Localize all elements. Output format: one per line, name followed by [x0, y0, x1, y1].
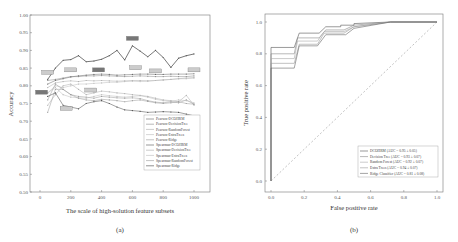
- data-point: [170, 102, 171, 103]
- legend-label: Extra Trees (AUC = 0.94 ± 0.07): [370, 166, 418, 170]
- data-point: [70, 83, 71, 84]
- legend-label: Pearson-Ridge: [156, 138, 178, 142]
- y-tick-label: 0.6: [256, 83, 263, 88]
- data-point: [47, 87, 48, 88]
- series-line: [48, 46, 194, 80]
- x-tick-label: 1.0: [434, 195, 441, 200]
- data-point: [109, 91, 110, 92]
- data-point: [124, 76, 125, 77]
- data-point: [132, 45, 133, 46]
- data-point: [178, 76, 179, 77]
- data-point: [63, 89, 64, 90]
- legend-label: Spearman-ExtraTrees: [156, 154, 188, 158]
- data-point: [155, 50, 156, 51]
- data-point: [101, 94, 102, 95]
- legend-label: Decision Tree (AUC = 0.93 ± 0.07): [370, 155, 422, 159]
- data-point: [116, 97, 117, 98]
- data-point: [147, 112, 148, 113]
- x-tick-label: 0.6: [367, 195, 374, 200]
- data-point: [140, 98, 141, 99]
- data-point: [63, 77, 64, 78]
- data-point: [178, 99, 179, 100]
- data-point: [109, 74, 110, 75]
- data-point: [163, 76, 164, 77]
- data-point: [86, 80, 87, 81]
- data-point: [163, 57, 164, 58]
- data-point: [93, 100, 94, 101]
- data-point: [55, 83, 56, 84]
- data-point: [55, 87, 56, 88]
- figure: 0.500.550.600.650.700.750.800.850.900.95…: [0, 0, 458, 242]
- legend: DCOHRM (AUC = 0.95 ± 0.05)Decision Tree …: [358, 146, 438, 177]
- data-point: [93, 98, 94, 99]
- series-lines: [47, 45, 194, 116]
- data-point: [86, 97, 87, 98]
- data-point: [78, 76, 79, 77]
- legend-label: Spearman-DecisionTree: [156, 148, 191, 152]
- data-point: [155, 102, 156, 103]
- data-point: [193, 77, 194, 78]
- y-tick-label: 0.85: [19, 66, 28, 71]
- data-point: [101, 59, 102, 60]
- data-point: [140, 95, 141, 96]
- annotation-box: [150, 69, 162, 73]
- data-point: [193, 75, 194, 76]
- y-tick-label: 0.65: [19, 137, 28, 142]
- data-point: [116, 100, 117, 101]
- y-tick-label: 0.90: [19, 48, 28, 53]
- data-point: [116, 96, 117, 97]
- data-point: [63, 85, 64, 86]
- data-point: [109, 82, 110, 83]
- data-point: [132, 94, 133, 95]
- annotation-box: [126, 36, 138, 40]
- data-point: [163, 111, 164, 112]
- data-point: [140, 75, 141, 76]
- data-point: [132, 110, 133, 111]
- data-point: [124, 97, 125, 98]
- data-point: [140, 51, 141, 52]
- data-point: [193, 104, 194, 105]
- x-tick-label: 800: [159, 195, 167, 200]
- y-tick-label: 0.75: [19, 101, 28, 106]
- data-point: [47, 105, 48, 106]
- data-point: [147, 76, 148, 77]
- data-point: [101, 80, 102, 81]
- data-point: [116, 82, 117, 83]
- annotation-boxes: [36, 36, 200, 110]
- y-tick-label: 0.4: [256, 115, 263, 120]
- data-point: [86, 98, 87, 99]
- x-tick-label: 0: [39, 195, 42, 200]
- y-tick-label: 0.8: [256, 51, 263, 56]
- data-point: [140, 81, 141, 82]
- data-point: [147, 74, 148, 75]
- legend-label: Spearman-DCOHRM: [156, 143, 188, 147]
- data-point: [101, 99, 102, 100]
- legend-label: Random Forest (AUC = 0.92 ± 0.07): [370, 160, 424, 164]
- data-point: [78, 108, 79, 109]
- data-point: [93, 74, 94, 75]
- data-point: [178, 101, 179, 102]
- data-point: [116, 75, 117, 76]
- y-tick-label: 0.0: [256, 179, 263, 184]
- data-point: [124, 98, 125, 99]
- data-point: [132, 76, 133, 77]
- accuracy-chart-panel: 0.500.550.600.650.700.750.800.850.900.95…: [7, 13, 210, 234]
- data-point: [155, 74, 156, 75]
- data-point: [70, 59, 71, 60]
- annotation-box: [42, 70, 54, 74]
- x-tick-label: 0.0: [268, 195, 275, 200]
- data-point: [63, 105, 64, 106]
- annotation-box: [93, 68, 105, 72]
- y-tick-label: 0.95: [19, 30, 28, 35]
- y-tick-label: 0.2: [256, 147, 263, 152]
- data-point: [78, 96, 79, 97]
- x-axis-ticks: 0.00.20.40.60.81.0: [268, 190, 441, 200]
- data-point: [55, 68, 56, 69]
- data-point: [186, 114, 187, 115]
- data-point: [47, 83, 48, 84]
- data-point: [116, 81, 117, 82]
- data-point: [47, 79, 48, 80]
- data-point: [163, 74, 164, 75]
- data-point: [163, 100, 164, 101]
- y-tick-label: 0.80: [19, 83, 28, 88]
